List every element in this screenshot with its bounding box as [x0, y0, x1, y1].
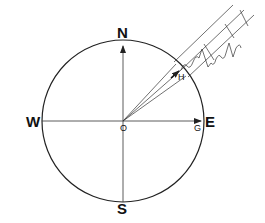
incident-beam — [123, 5, 254, 121]
diagram-canvas: N S W E O G H — [0, 0, 265, 223]
label-north: N — [117, 25, 128, 40]
label-east: E — [205, 114, 215, 129]
label-west: W — [26, 114, 40, 129]
label-h: H — [178, 73, 185, 82]
label-south: S — [117, 201, 127, 216]
label-origin: O — [120, 124, 127, 133]
diagram-drawing — [0, 0, 265, 223]
label-g: G — [194, 124, 201, 133]
